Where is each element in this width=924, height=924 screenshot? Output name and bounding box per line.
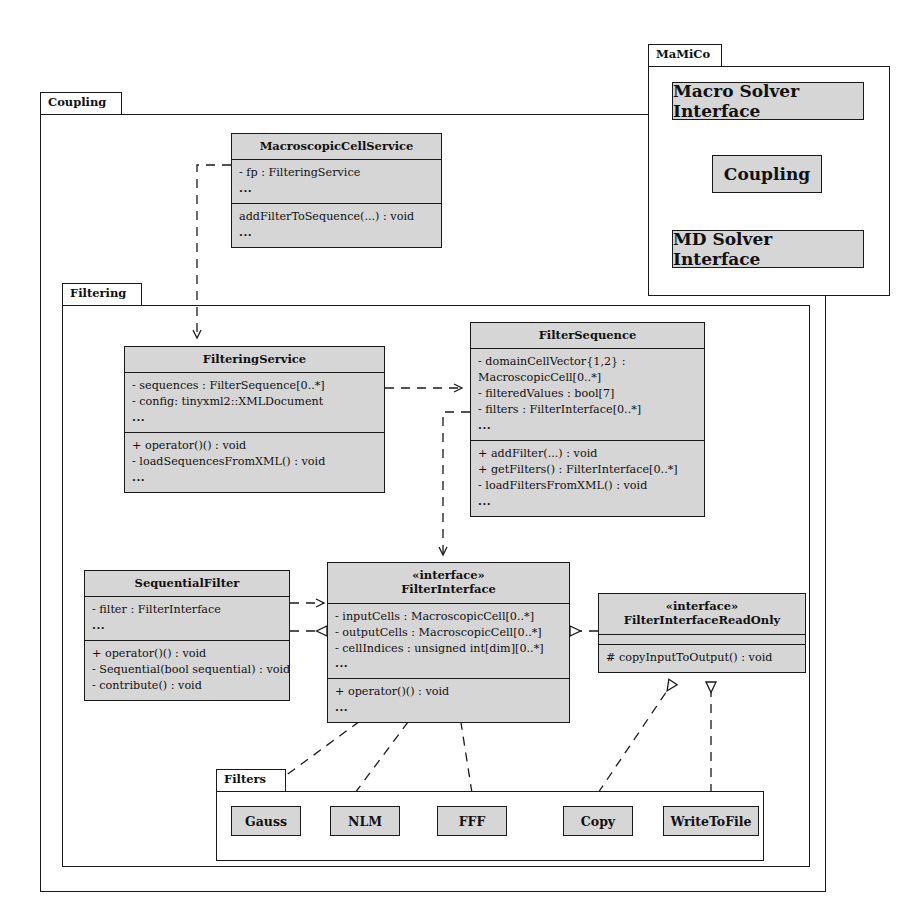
package-tab-coupling: Coupling bbox=[40, 92, 122, 114]
class-filtering-service[interactable]: FilteringService - sequences : FilterSeq… bbox=[124, 346, 385, 493]
attribute-ellipsis: ... bbox=[132, 410, 378, 426]
operation-ellipsis: ... bbox=[239, 225, 435, 241]
package-tab-filtering: Filtering bbox=[62, 283, 142, 305]
stereotype-interface: «interface» bbox=[332, 568, 565, 582]
attribute-ellipsis: ... bbox=[478, 418, 698, 434]
class-name-text: FilterInterface bbox=[401, 582, 496, 596]
operation-item: - loadSequencesFromXML() : void bbox=[132, 454, 378, 470]
operation-item: + getFilters() : FilterInterface[0..*] bbox=[478, 462, 698, 478]
class-name-macroscopic-cell-service: MacroscopicCellService bbox=[232, 134, 441, 159]
attributes-filtering-service: - sequences : FilterSequence[0..*] - con… bbox=[125, 372, 384, 432]
operation-item: + operator()() : void bbox=[335, 684, 563, 700]
filter-class-copy-label: Copy bbox=[581, 814, 615, 829]
attribute-item: - filters : FilterInterface[0..*] bbox=[478, 402, 698, 418]
operations-filter-interface-read-only: # copyInputToOutput() : void bbox=[599, 644, 805, 672]
operations-filter-interface: + operator()() : void ... bbox=[328, 678, 569, 722]
mamico-coupling-label: Coupling bbox=[724, 164, 810, 184]
operation-ellipsis: ... bbox=[478, 494, 698, 510]
package-label-coupling: Coupling bbox=[48, 95, 106, 109]
package-label-filtering: Filtering bbox=[70, 286, 126, 300]
attribute-item: - inputCells : MacroscopicCell[0..*] bbox=[335, 609, 563, 625]
operation-item: - contribute() : void bbox=[92, 678, 283, 694]
filter-class-copy[interactable]: Copy bbox=[563, 806, 633, 836]
attributes-sequential-filter: - filter : FilterInterface ... bbox=[85, 596, 289, 640]
filter-class-gauss-label: Gauss bbox=[245, 814, 287, 829]
attribute-item: - config: tinyxml2::XMLDocument bbox=[132, 394, 378, 410]
operation-item: - loadFiltersFromXML() : void bbox=[478, 478, 698, 494]
operation-ellipsis: ... bbox=[132, 470, 378, 486]
operation-item: + operator()() : void bbox=[92, 646, 283, 662]
operation-item: + operator()() : void bbox=[132, 438, 378, 454]
operations-filter-sequence: + addFilter(...) : void + getFilters() :… bbox=[471, 440, 704, 516]
operations-sequential-filter: + operator()() : void - Sequential(bool … bbox=[85, 640, 289, 700]
package-label-filters: Filters bbox=[224, 772, 266, 786]
class-name-sequential-filter: SequentialFilter bbox=[85, 571, 289, 596]
filter-class-write-to-file[interactable]: WriteToFile bbox=[663, 806, 759, 836]
class-name-filter-interface: «interface» FilterInterface bbox=[328, 563, 569, 603]
operation-item: # copyInputToOutput() : void bbox=[606, 650, 799, 666]
mamico-md-solver-interface[interactable]: MD Solver Interface bbox=[672, 230, 864, 268]
class-macroscopic-cell-service[interactable]: MacroscopicCellService - fp : FilteringS… bbox=[231, 133, 442, 248]
attribute-ellipsis: ... bbox=[92, 618, 283, 634]
package-tab-mamico: MaMiCo bbox=[648, 44, 722, 66]
attribute-ellipsis: ... bbox=[335, 656, 563, 672]
filter-class-nlm[interactable]: NLM bbox=[330, 806, 400, 836]
class-name-filtering-service: FilteringService bbox=[125, 347, 384, 372]
attribute-item: - domainCellVector{1,2} : MacroscopicCel… bbox=[478, 354, 698, 386]
mamico-coupling[interactable]: Coupling bbox=[712, 155, 822, 193]
package-tab-filters: Filters bbox=[216, 769, 286, 791]
attribute-item: - filter : FilterInterface bbox=[92, 602, 283, 618]
filter-class-fff-label: FFF bbox=[459, 814, 486, 829]
class-name-filter-sequence: FilterSequence bbox=[471, 323, 704, 348]
operation-item: + addFilter(...) : void bbox=[478, 446, 698, 462]
operations-filtering-service: + operator()() : void - loadSequencesFro… bbox=[125, 432, 384, 492]
operations-macroscopic-cell-service: addFilterToSequence(...) : void ... bbox=[232, 203, 441, 247]
mamico-md-solver-interface-label: MD Solver Interface bbox=[673, 229, 863, 269]
operation-ellipsis: ... bbox=[335, 700, 563, 716]
attribute-item: - outputCells : MacroscopicCell[0..*] bbox=[335, 625, 563, 641]
attributes-filter-sequence: - domainCellVector{1,2} : MacroscopicCel… bbox=[471, 348, 704, 440]
filter-class-write-to-file-label: WriteToFile bbox=[670, 814, 751, 829]
attribute-ellipsis: ... bbox=[239, 181, 435, 197]
filter-class-nlm-label: NLM bbox=[348, 814, 382, 829]
mamico-macro-solver-interface-label: Macro Solver Interface bbox=[673, 81, 863, 121]
filter-class-fff[interactable]: FFF bbox=[437, 806, 507, 836]
class-filter-sequence[interactable]: FilterSequence - domainCellVector{1,2} :… bbox=[470, 322, 705, 517]
class-name-filter-interface-read-only: «interface» FilterInterfaceReadOnly bbox=[599, 594, 805, 634]
attribute-item: - cellIndices : unsigned int[dim][0..*] bbox=[335, 641, 563, 657]
stereotype-interface: «interface» bbox=[603, 599, 801, 613]
attribute-item: - filteredValues : bool[7] bbox=[478, 386, 698, 402]
attribute-item: - fp : FilteringService bbox=[239, 165, 435, 181]
mamico-macro-solver-interface[interactable]: Macro Solver Interface bbox=[672, 82, 864, 120]
attributes-filter-interface-read-only bbox=[599, 634, 805, 644]
filter-class-gauss[interactable]: Gauss bbox=[231, 806, 301, 836]
operation-item: addFilterToSequence(...) : void bbox=[239, 209, 435, 225]
attributes-filter-interface: - inputCells : MacroscopicCell[0..*] - o… bbox=[328, 603, 569, 679]
class-name-text: FilterInterfaceReadOnly bbox=[624, 613, 781, 627]
package-label-mamico: MaMiCo bbox=[656, 47, 710, 61]
class-filter-interface-read-only[interactable]: «interface» FilterInterfaceReadOnly # co… bbox=[598, 593, 806, 673]
attributes-macroscopic-cell-service: - fp : FilteringService ... bbox=[232, 159, 441, 203]
operation-item: - Sequential(bool sequential) : void bbox=[92, 662, 283, 678]
attribute-item: - sequences : FilterSequence[0..*] bbox=[132, 378, 378, 394]
class-sequential-filter[interactable]: SequentialFilter - filter : FilterInterf… bbox=[84, 570, 290, 701]
uml-diagram-canvas: Coupling Filtering MaMiCo Macro Solver I… bbox=[0, 0, 924, 924]
class-filter-interface[interactable]: «interface» FilterInterface - inputCells… bbox=[327, 562, 570, 723]
